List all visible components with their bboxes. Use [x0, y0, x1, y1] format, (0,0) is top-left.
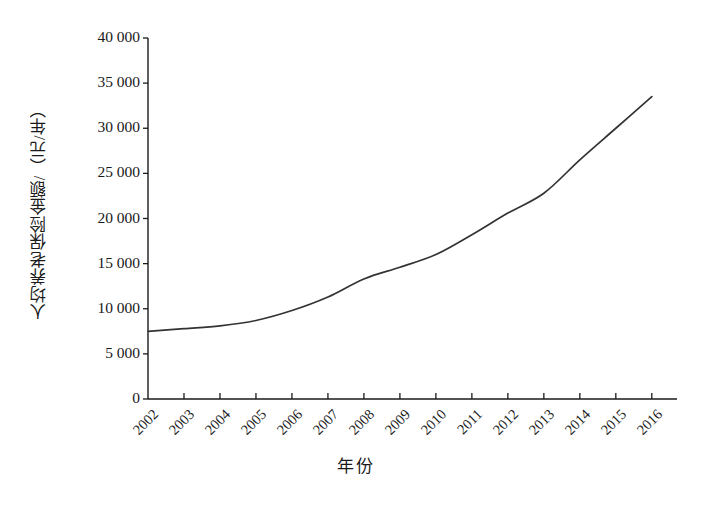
y-tick-label: 10 000	[56, 299, 140, 317]
x-axis-title: 年份	[0, 452, 711, 477]
x-axis-title-text: 年份	[337, 457, 375, 476]
y-tick-label: 5 000	[56, 344, 140, 362]
y-tick-label: 30 000	[56, 118, 140, 136]
y-axis-ticks	[143, 38, 148, 399]
y-tick-label: 40 000	[56, 28, 140, 46]
y-tick-label: 15 000	[56, 254, 140, 272]
y-tick-label: 0	[56, 389, 140, 407]
chart-figure: 人均养老保险金额/（元/年） 05 00010 00015 00020 0002…	[0, 0, 711, 510]
data-series-line	[148, 97, 652, 332]
axes	[148, 38, 677, 399]
y-tick-label: 20 000	[56, 209, 140, 227]
x-axis-ticks	[184, 393, 652, 399]
y-tick-label: 35 000	[56, 73, 140, 91]
y-tick-label: 25 000	[56, 163, 140, 181]
